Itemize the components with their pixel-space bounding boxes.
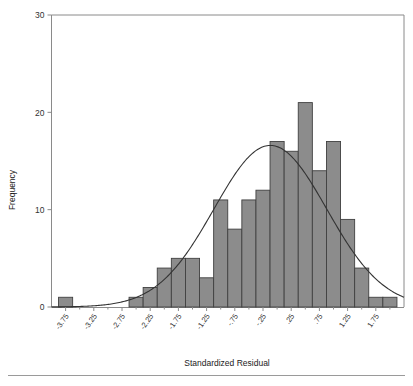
histogram-bar (256, 190, 270, 307)
x-tick-label: -3.25 (82, 312, 99, 331)
x-tick-label: .25 (283, 312, 296, 326)
standardized-residual-histogram: 0102030 Frequency -3.75-3.25-2.75-2.25-1… (0, 0, 413, 386)
y-tick-label: 20 (35, 108, 45, 118)
histogram-bar (326, 142, 340, 307)
histogram-bar (383, 297, 397, 307)
histogram-bar (185, 258, 199, 307)
x-tick-label: -.25 (253, 312, 268, 328)
x-tick-label: -2.75 (110, 312, 127, 331)
histogram-bar (242, 200, 256, 307)
x-tick-label: -1.25 (195, 312, 212, 331)
y-tick-label: 30 (35, 10, 45, 20)
histogram-bars (59, 103, 397, 307)
y-tick-label: 10 (35, 205, 45, 215)
histogram-bar (228, 229, 242, 307)
x-tick-label: .75 (311, 312, 324, 326)
histogram-bar (200, 278, 214, 307)
histogram-bar (270, 142, 284, 307)
x-tick-label: -.75 (225, 312, 240, 328)
x-axis-ticks: -3.75-3.25-2.75-2.25-1.75-1.25-.75-.25.2… (54, 307, 390, 331)
histogram-bar (369, 297, 383, 307)
histogram-bar (284, 151, 298, 307)
x-tick-label: 1.25 (337, 312, 353, 329)
histogram-figure: 0102030 Frequency -3.75-3.25-2.75-2.25-1… (0, 0, 413, 386)
histogram-bar (355, 268, 369, 307)
y-axis-ticks: 0102030 (35, 10, 51, 312)
x-tick-label: -1.75 (166, 312, 183, 331)
histogram-bar (171, 258, 185, 307)
x-tick-label: 1.75 (365, 312, 381, 329)
histogram-bar (312, 171, 326, 307)
x-axis-title: Standardized Residual (184, 358, 270, 368)
histogram-bar (214, 200, 228, 307)
x-tick-label: -3.75 (54, 312, 71, 331)
histogram-bar (59, 297, 73, 307)
y-axis-title: Frequency (7, 169, 17, 210)
histogram-bar (298, 103, 312, 307)
x-tick-label: -2.25 (138, 312, 155, 331)
y-tick-label: 0 (40, 302, 45, 312)
histogram-bar (341, 219, 355, 307)
